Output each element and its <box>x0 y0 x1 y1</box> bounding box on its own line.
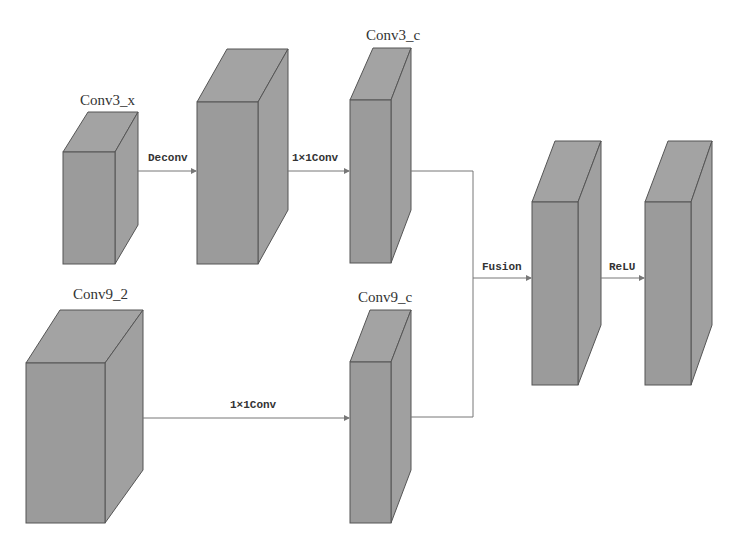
label-conv9-c: Conv9_c <box>358 289 413 305</box>
feature-fusion-diagram: Conv3_x Conv3_c Conv9_2 Conv9_c <box>0 0 733 546</box>
label-conv3-c: Conv3_c <box>366 27 421 43</box>
block-conv9-2 <box>26 310 143 523</box>
block-conv3-x <box>63 112 138 264</box>
block-deconv-output <box>197 49 288 264</box>
label-1x1conv-top: 1×1Conv <box>292 152 339 164</box>
block-relu-output <box>645 141 712 385</box>
label-fusion: Fusion <box>482 261 522 273</box>
block-conv3-c <box>350 48 411 263</box>
label-1x1conv-bottom: 1×1Conv <box>230 399 277 411</box>
label-deconv: Deconv <box>148 152 188 164</box>
label-relu: ReLU <box>609 261 635 273</box>
block-conv9-c <box>350 310 411 523</box>
edge-fusion <box>411 171 531 417</box>
label-conv3-x: Conv3_x <box>80 92 136 108</box>
block-fusion-output <box>532 141 601 385</box>
label-conv9-2: Conv9_2 <box>73 286 128 302</box>
